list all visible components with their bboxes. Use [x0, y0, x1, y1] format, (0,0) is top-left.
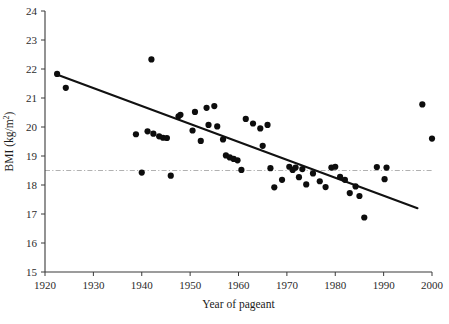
data-point	[133, 131, 139, 137]
data-point	[264, 122, 270, 128]
x-tick-label: 1950	[179, 279, 202, 291]
data-point	[54, 71, 60, 77]
x-tick-label: 1980	[324, 279, 347, 291]
data-point	[303, 181, 309, 187]
data-point	[429, 136, 435, 142]
data-point	[260, 143, 266, 149]
data-point	[250, 120, 256, 126]
data-point	[296, 174, 302, 180]
data-point	[150, 131, 156, 137]
data-point	[279, 177, 285, 183]
y-tick-label: 15	[26, 266, 38, 278]
y-tick-label: 23	[26, 34, 38, 46]
x-tick-label: 1990	[373, 279, 396, 291]
data-point	[220, 136, 226, 142]
data-point	[310, 170, 316, 176]
data-point	[292, 165, 298, 171]
data-point	[332, 164, 338, 170]
bmi-scatter-chart: 1516171819202122232419201930194019501960…	[0, 0, 449, 324]
data-point	[139, 169, 145, 175]
y-tick-label: 18	[26, 179, 38, 191]
data-point	[63, 85, 69, 91]
data-point	[419, 101, 425, 107]
data-point	[203, 105, 209, 111]
data-point	[383, 165, 389, 171]
y-tick-label: 20	[26, 121, 38, 133]
y-tick-label: 21	[26, 92, 37, 104]
y-tick-label: 16	[26, 237, 38, 249]
data-point	[356, 193, 362, 199]
data-point	[352, 183, 358, 189]
data-point	[148, 56, 154, 62]
data-point	[198, 138, 204, 144]
y-tick-label: 17	[26, 208, 38, 220]
data-point	[234, 157, 240, 163]
data-point	[205, 122, 211, 128]
x-tick-label: 1930	[82, 279, 105, 291]
data-point	[243, 116, 249, 122]
x-tick-label: 1920	[34, 279, 57, 291]
data-point	[177, 112, 183, 118]
data-point	[322, 184, 328, 190]
data-point	[144, 128, 150, 134]
y-tick-label: 19	[26, 150, 38, 162]
x-tick-label: 1970	[276, 279, 299, 291]
data-point	[299, 166, 305, 172]
data-point	[374, 164, 380, 170]
data-point	[214, 123, 220, 129]
y-axis-title: BMI (kg/m2)	[2, 111, 17, 171]
x-tick-label: 1940	[131, 279, 154, 291]
data-point	[271, 184, 277, 190]
x-tick-label: 1960	[228, 279, 251, 291]
x-tick-label: 2000	[421, 279, 444, 291]
data-point	[347, 190, 353, 196]
data-point	[164, 135, 170, 141]
data-point	[381, 176, 387, 182]
data-point	[189, 127, 195, 133]
plot-area: 1516171819202122232419201930194019501960…	[0, 0, 449, 324]
data-point	[267, 165, 273, 171]
data-point	[317, 178, 323, 184]
regression-trend-line	[56, 74, 417, 208]
data-point	[192, 109, 198, 115]
x-axis-title: Year of pageant	[202, 298, 275, 311]
y-tick-label: 24	[26, 5, 38, 17]
y-tick-label: 22	[26, 63, 37, 75]
data-point	[257, 125, 263, 131]
data-point	[361, 214, 367, 220]
data-point	[342, 177, 348, 183]
data-point	[211, 103, 217, 109]
data-point	[168, 173, 174, 179]
data-point	[238, 167, 244, 173]
